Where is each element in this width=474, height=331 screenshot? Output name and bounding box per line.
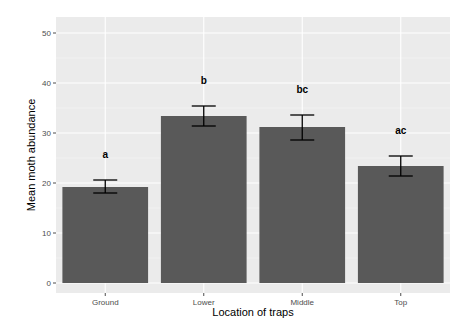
significance-label-ground: a: [102, 149, 108, 160]
significance-label-middle: bc: [296, 84, 308, 95]
bar-lower: [161, 116, 247, 283]
x-tick-label: Ground: [92, 298, 119, 307]
bar-middle: [259, 127, 345, 283]
y-axis: 01020304050: [42, 29, 56, 288]
y-tick-label: 10: [42, 229, 51, 238]
y-tick-label: 20: [42, 179, 51, 188]
y-tick-label: 40: [42, 79, 51, 88]
x-tick-label: Middle: [290, 298, 314, 307]
bar-ground: [62, 187, 148, 283]
x-tick-label: Top: [394, 298, 407, 307]
y-tick-label: 50: [42, 29, 51, 38]
x-axis: GroundLowerMiddleTop: [92, 293, 408, 307]
bar-top: [358, 166, 444, 283]
y-tick-label: 0: [47, 279, 52, 288]
y-tick-label: 30: [42, 129, 51, 138]
significance-label-top: ac: [395, 125, 407, 136]
bar-chart: abbcac 01020304050 GroundLowerMiddleTop …: [0, 0, 474, 331]
x-axis-title: Location of traps: [212, 306, 294, 318]
y-axis-title: Mean moth abundance: [25, 99, 37, 212]
significance-label-lower: b: [201, 75, 207, 86]
